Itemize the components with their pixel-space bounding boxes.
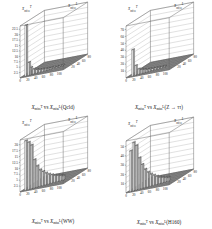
svg-text:12.5: 12.5 bbox=[12, 161, 18, 165]
svg-text:20: 20 bbox=[71, 179, 75, 183]
svg-text:80: 80 bbox=[50, 73, 54, 77]
plot-area-ztautau: 1020304050607002040608010020406080XmissT… bbox=[106, 0, 212, 100]
svg-text:100: 100 bbox=[57, 72, 62, 76]
lego-plot-qcd: 2.557.51012.51517.52022.5020406080100204… bbox=[0, 0, 106, 100]
svg-text:5: 5 bbox=[16, 178, 18, 182]
lego-plot-h160: 102030405002040608010020406080XmissTXmis… bbox=[106, 115, 212, 215]
svg-text:20: 20 bbox=[71, 65, 75, 69]
svg-text:40: 40 bbox=[34, 190, 38, 194]
svg-text:60: 60 bbox=[188, 59, 192, 63]
plot-area-qcd: 2.557.51012.51517.52022.5020406080100204… bbox=[0, 0, 106, 100]
svg-text:60: 60 bbox=[82, 173, 86, 177]
svg-text:20: 20 bbox=[177, 65, 181, 69]
svg-text:60: 60 bbox=[42, 189, 46, 193]
svg-text:60: 60 bbox=[188, 174, 192, 178]
svg-text:7.5: 7.5 bbox=[14, 60, 19, 64]
svg-text:20: 20 bbox=[26, 78, 30, 82]
svg-text:10: 10 bbox=[15, 167, 19, 171]
plot-area-ww: 2.557.51012.51517.5200204060801002040608… bbox=[0, 114, 106, 214]
svg-text:80: 80 bbox=[156, 188, 160, 192]
svg-text:20: 20 bbox=[121, 62, 125, 66]
svg-text:20: 20 bbox=[177, 180, 181, 184]
svg-text:40: 40 bbox=[121, 48, 125, 52]
svg-text:17.5: 17.5 bbox=[12, 149, 18, 153]
svg-text:XmissT: XmissT bbox=[127, 5, 138, 13]
svg-text:10: 10 bbox=[121, 69, 125, 73]
svg-text:7.5: 7.5 bbox=[14, 172, 19, 176]
svg-text:0: 0 bbox=[19, 79, 21, 83]
svg-text:15: 15 bbox=[15, 44, 19, 48]
svg-text:80: 80 bbox=[88, 55, 92, 59]
svg-text:XmissT: XmissT bbox=[127, 120, 138, 128]
svg-text:60: 60 bbox=[148, 75, 152, 79]
svg-text:20: 20 bbox=[26, 192, 30, 196]
svg-text:5: 5 bbox=[16, 65, 18, 69]
svg-text:100: 100 bbox=[57, 186, 62, 190]
svg-text:2.5: 2.5 bbox=[14, 71, 19, 75]
svg-text:20: 20 bbox=[15, 33, 19, 37]
panel-caption-qcd: XmissT vs XmissL(Qcld) bbox=[0, 101, 106, 114]
lego-plot-ztautau: 1020304050607002040608010020406080XmissT… bbox=[106, 0, 212, 100]
svg-text:60: 60 bbox=[148, 190, 152, 194]
svg-text:40: 40 bbox=[77, 176, 81, 180]
svg-text:80: 80 bbox=[156, 73, 160, 77]
svg-text:12.5: 12.5 bbox=[12, 49, 18, 53]
svg-text:0: 0 bbox=[125, 194, 127, 198]
svg-text:80: 80 bbox=[194, 55, 198, 59]
svg-text:XmissL: XmissL bbox=[67, 116, 78, 124]
svg-text:30: 30 bbox=[121, 163, 125, 167]
svg-text:40: 40 bbox=[140, 191, 144, 195]
svg-text:10: 10 bbox=[121, 182, 125, 186]
svg-text:60: 60 bbox=[42, 75, 46, 79]
svg-text:100: 100 bbox=[163, 72, 168, 76]
svg-text:80: 80 bbox=[50, 187, 54, 191]
svg-text:XmissL: XmissL bbox=[173, 2, 184, 10]
svg-text:40: 40 bbox=[121, 154, 125, 158]
svg-text:70: 70 bbox=[121, 28, 125, 32]
panel-caption-ztautau: XmissT vs XmissL(Z → ττ) bbox=[106, 101, 212, 114]
svg-text:XmissT: XmissT bbox=[21, 119, 32, 127]
svg-text:22.5: 22.5 bbox=[12, 27, 18, 31]
svg-text:20: 20 bbox=[132, 78, 136, 82]
svg-text:XmissL: XmissL bbox=[173, 117, 184, 125]
svg-text:XmissL: XmissL bbox=[67, 2, 78, 10]
svg-text:20: 20 bbox=[15, 143, 19, 147]
svg-text:40: 40 bbox=[34, 76, 38, 80]
panel-ztautau: 1020304050607002040608010020406080XmissT… bbox=[106, 0, 212, 114]
panel-h160: 102030405002040608010020406080XmissTXmis… bbox=[106, 115, 212, 229]
svg-text:20: 20 bbox=[121, 173, 125, 177]
svg-text:40: 40 bbox=[140, 76, 144, 80]
lego-plot-ww: 2.557.51012.51517.5200204060801002040608… bbox=[0, 114, 106, 214]
panel-qcd: 2.557.51012.51517.52022.5020406080100204… bbox=[0, 0, 106, 114]
panel-ww: 2.557.51012.51517.5200204060801002040608… bbox=[0, 114, 106, 228]
svg-text:17.5: 17.5 bbox=[12, 38, 18, 42]
svg-text:0: 0 bbox=[125, 79, 127, 83]
svg-text:100: 100 bbox=[163, 187, 168, 191]
svg-text:40: 40 bbox=[183, 62, 187, 66]
plot-area-h160: 102030405002040608010020406080XmissTXmis… bbox=[106, 115, 212, 215]
panel-caption-h160: XmissT vs XmissL(H160) bbox=[106, 216, 212, 229]
figure-multi-panel-lego-plots: 2.557.51012.51517.52022.5020406080100204… bbox=[0, 0, 212, 229]
svg-text:20: 20 bbox=[132, 193, 136, 197]
svg-text:60: 60 bbox=[121, 35, 125, 39]
svg-text:60: 60 bbox=[82, 59, 86, 63]
svg-text:40: 40 bbox=[183, 177, 187, 181]
svg-text:10: 10 bbox=[15, 55, 19, 59]
svg-text:2.5: 2.5 bbox=[14, 184, 19, 188]
svg-text:50: 50 bbox=[121, 145, 125, 149]
svg-text:80: 80 bbox=[194, 170, 198, 174]
svg-text:40: 40 bbox=[77, 62, 81, 66]
svg-text:0: 0 bbox=[19, 193, 21, 197]
svg-text:80: 80 bbox=[88, 169, 92, 173]
svg-text:XmissT: XmissT bbox=[21, 5, 32, 13]
svg-text:15: 15 bbox=[15, 155, 19, 159]
svg-text:50: 50 bbox=[121, 42, 125, 46]
panel-caption-ww: XmissT vs XmissL(WW) bbox=[0, 215, 106, 228]
svg-text:30: 30 bbox=[121, 55, 125, 59]
